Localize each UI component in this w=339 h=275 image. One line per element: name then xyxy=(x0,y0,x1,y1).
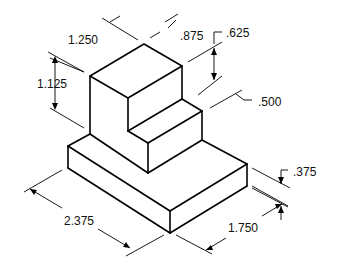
dim-step-offset: .500 xyxy=(210,90,282,109)
dim-base-length: 2.375 xyxy=(24,170,164,256)
dim-upper-height: 1.125 xyxy=(37,56,84,128)
dim-label-base-width: 1.750 xyxy=(228,221,258,235)
dim-label-top-width: 1.250 xyxy=(68,33,98,47)
object-outline xyxy=(68,44,247,233)
dim-label-step-depth: .875 xyxy=(180,29,204,43)
dim-label-step-height: .625 xyxy=(226,26,250,40)
dim-label-step-offset: .500 xyxy=(258,95,282,109)
dim-label-base-length: 2.375 xyxy=(64,214,94,228)
isometric-drawing: 1.250 .875 .625 .500 1.125 xyxy=(0,0,339,275)
dim-base-thickness: .375 xyxy=(252,165,317,220)
dim-top-width: 1.250 xyxy=(48,16,138,72)
dim-step-depth: .875 xyxy=(150,14,204,43)
dim-label-upper-height: 1.125 xyxy=(37,77,67,91)
dim-label-base-thickness: .375 xyxy=(293,165,317,179)
upper-block-top-face xyxy=(90,44,182,98)
